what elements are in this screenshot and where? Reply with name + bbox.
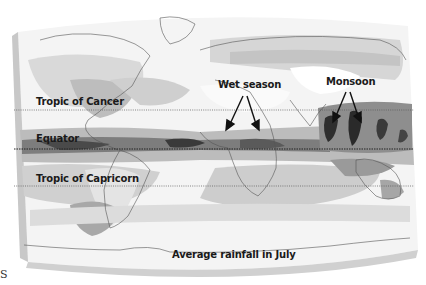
map-caption: Average rainfall in July — [172, 249, 295, 260]
equator-label: Equator — [36, 133, 79, 144]
page-text-fragment: S — [0, 268, 8, 281]
monsoon-label: Monsoon — [326, 76, 375, 87]
tropic-of-capricorn-label: Tropic of Capricorn — [36, 173, 139, 184]
wet-season-label: Wet season — [218, 79, 281, 90]
tropic-of-cancer-label: Tropic of Cancer — [36, 96, 124, 107]
rainfall-map: Tropic of Cancer Equator Tropic of Capri… — [0, 0, 426, 285]
